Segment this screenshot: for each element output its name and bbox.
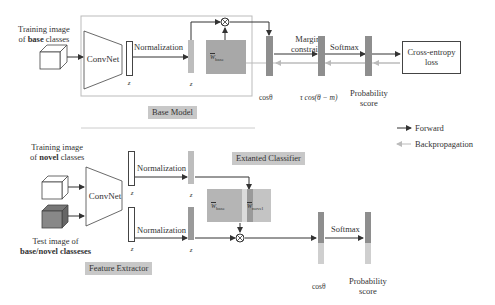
normalization-label: Normalization	[134, 42, 183, 52]
prob-line1: Probability	[349, 276, 387, 286]
feature-vector-z-bottom	[128, 207, 135, 242]
loss-line1: Cross-entropy	[403, 47, 460, 57]
cos-theta-label-bottom: cosθ	[312, 282, 326, 292]
normalization-label-top: Normalization	[137, 163, 186, 173]
margin-bar	[318, 36, 325, 76]
cos-theta-label: cosθ	[259, 93, 273, 103]
prob-line2: score	[350, 98, 388, 108]
weight-novel-box: Wnovel	[253, 189, 271, 222]
z-norm-label-top: z	[186, 190, 196, 200]
input-novel-label: Training image of novel classes	[30, 142, 84, 162]
base-model-tag: Base Model	[148, 106, 197, 119]
cos-theta-bar-bottom	[318, 212, 324, 264]
feature-vector-z	[126, 41, 133, 76]
weight-base-box: Wbase	[206, 40, 246, 74]
label-bold: base	[28, 34, 44, 44]
weight-sub: novel	[252, 206, 263, 211]
label-bold: novel	[39, 152, 58, 162]
loss-label: Cross-entropy loss	[403, 47, 460, 67]
input-novel-line2: of novel classes	[30, 152, 84, 162]
input-novel-line1: Training image	[30, 142, 84, 152]
weight-sub: base	[215, 57, 224, 62]
cos-theta-bar	[266, 36, 273, 76]
input-base-label-line2: of base classes	[18, 34, 70, 44]
tau-cos-label: τ cos(θ − m)	[300, 93, 337, 103]
z-norm-label-bottom: z	[186, 245, 196, 255]
normalized-z-bar	[188, 40, 194, 73]
input-base-label-line1: Training image	[18, 24, 70, 34]
label-prefix: of	[18, 34, 27, 44]
probability-bar-bottom	[365, 212, 371, 264]
cross-entropy-loss-box: Cross-entropy loss	[402, 41, 461, 74]
weight-base-box-bottom: Wbase	[207, 189, 242, 222]
z-label: z	[124, 78, 134, 88]
loss-line2: loss	[403, 57, 460, 67]
softmax-label-bottom: Softmax	[331, 224, 360, 234]
probability-score-label: Probability score	[350, 88, 388, 108]
weight-sub: base	[216, 206, 225, 211]
legend-forward: Forward	[415, 123, 444, 133]
extended-classifier-tag: Extanted Classifier	[232, 152, 305, 165]
z-label-top: z	[127, 188, 137, 198]
label-suffix: classes	[59, 152, 85, 162]
z-norm-label: z	[186, 79, 196, 89]
softmax-label: Softmax	[330, 42, 359, 52]
label-prefix: of	[30, 152, 39, 162]
z-label-bottom: z	[127, 244, 137, 254]
prob-line2: score	[349, 286, 387, 296]
cube-novel-icon	[42, 176, 68, 199]
test-image-label: Test image of base/novel classeses	[20, 236, 91, 256]
test-line2: base/novel classeses	[20, 246, 91, 256]
label-suffix: classes	[44, 34, 70, 44]
prob-line1: Probability	[350, 88, 388, 98]
weight-base-label: Wbase	[210, 52, 224, 65]
normalized-z-bar-bottom	[188, 207, 194, 240]
convnet-novel: ConvNet	[88, 191, 122, 201]
input-base-label: Training image of base classes	[18, 24, 70, 44]
feature-vector-z-top	[128, 151, 135, 186]
probability-bar	[365, 36, 372, 76]
convnet-base: ConvNet	[86, 54, 120, 64]
normalization-label-bottom: Normalization	[137, 225, 186, 235]
test-line1: Test image of	[20, 236, 91, 246]
normalized-z-bar-top	[188, 151, 194, 184]
legend-backprop: Backpropagation	[415, 139, 473, 149]
weight-base-label-bottom: Wbase	[211, 201, 225, 214]
cube-base-icon	[40, 45, 67, 69]
probability-score-label-bottom: Probability score	[349, 276, 387, 296]
weight-novel-label: Wnovel	[247, 201, 263, 214]
cube-test-icon	[42, 205, 68, 228]
feature-extractor-tag: Feature Extractor	[85, 262, 152, 275]
